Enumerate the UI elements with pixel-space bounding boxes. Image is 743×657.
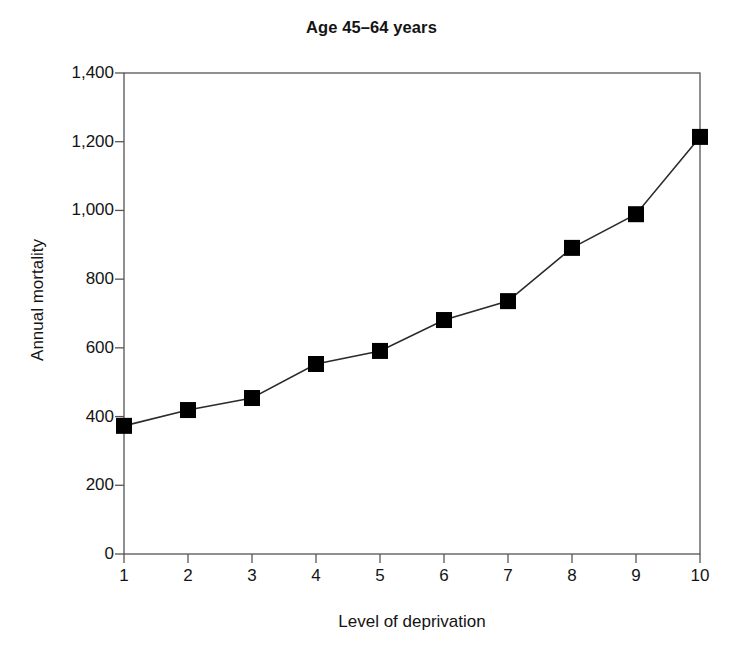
plot-frame-rect [124,73,700,554]
data-point-marker [308,356,324,372]
plot-frame [124,73,700,554]
data-point-marker [180,402,196,418]
x-axis-ticks [124,554,700,563]
y-axis-ticks [115,73,124,554]
data-point-marker [244,390,260,406]
data-line [124,137,700,426]
data-point-marker [628,206,644,222]
chart-figure: Age 45–64 years Annual mortality Level o… [0,0,743,657]
data-point-marker [692,129,708,145]
data-point-marker [372,343,388,359]
data-markers [116,129,708,434]
data-point-marker [116,418,132,434]
chart-plot-svg [0,0,743,657]
data-point-marker [564,240,580,256]
data-point-marker [436,312,452,328]
data-point-marker [500,293,516,309]
